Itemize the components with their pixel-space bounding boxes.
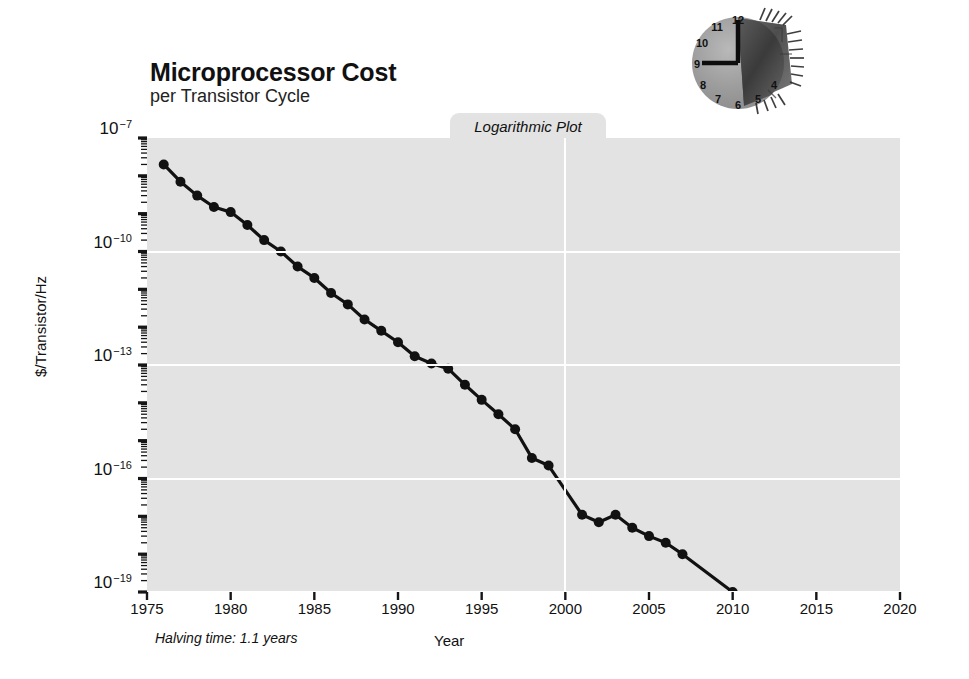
data-point[interactable] <box>410 351 420 361</box>
y-tick-label: 10−16 <box>62 459 132 480</box>
data-point[interactable] <box>644 531 654 541</box>
data-point[interactable] <box>510 424 520 434</box>
gridline-horizontal <box>147 591 900 593</box>
y-tick-label: 10−7 <box>62 118 132 139</box>
x-tick-label: 1980 <box>201 600 261 617</box>
svg-text:6: 6 <box>735 99 741 111</box>
series-line <box>164 164 833 592</box>
gridline-horizontal <box>147 478 900 480</box>
y-tick-label: 10−19 <box>62 572 132 593</box>
data-point[interactable] <box>577 510 587 520</box>
data-point[interactable] <box>527 453 537 463</box>
data-point[interactable] <box>242 220 252 230</box>
data-point[interactable] <box>493 409 503 419</box>
data-point[interactable] <box>159 159 169 169</box>
svg-text:10: 10 <box>696 37 708 49</box>
svg-text:5: 5 <box>755 93 761 105</box>
chart-page: Microprocessor Cost per Transistor Cycle… <box>0 0 969 679</box>
data-point[interactable] <box>376 326 386 336</box>
data-point[interactable] <box>594 517 604 527</box>
svg-text:9: 9 <box>694 58 700 70</box>
x-tick-label: 2020 <box>870 600 930 617</box>
data-point[interactable] <box>611 510 621 520</box>
data-point[interactable] <box>544 461 554 471</box>
data-point[interactable] <box>627 523 637 533</box>
y-tick-label: 10−10 <box>62 232 132 253</box>
x-tick-label: 1990 <box>368 600 428 617</box>
data-point[interactable] <box>677 549 687 559</box>
data-point[interactable] <box>209 202 219 212</box>
x-tick-label: 2010 <box>703 600 763 617</box>
x-tick-label: 1975 <box>117 600 177 617</box>
data-point[interactable] <box>661 538 671 548</box>
gridline-horizontal <box>147 364 900 366</box>
x-tick-label: 2005 <box>619 600 679 617</box>
page-subtitle: per Transistor Cycle <box>150 86 310 107</box>
data-point[interactable] <box>343 299 353 309</box>
data-point[interactable] <box>259 235 269 245</box>
chip-body-outer <box>738 18 792 105</box>
x-tick-label: 2015 <box>786 600 846 617</box>
plot-area <box>147 138 900 592</box>
x-axis-label: Year <box>434 632 464 649</box>
data-point[interactable] <box>293 262 303 272</box>
x-tick-label: 1995 <box>452 600 512 617</box>
data-point[interactable] <box>226 207 236 217</box>
data-point[interactable] <box>326 288 336 298</box>
svg-text:8: 8 <box>700 79 706 91</box>
svg-text:4: 4 <box>771 79 778 91</box>
clock-microchip-logo: 12 11 10 9 8 7 6 5 4 <box>686 6 804 118</box>
data-point[interactable] <box>393 337 403 347</box>
y-axis-label: $/Transistor/Hz <box>32 247 49 407</box>
gridline-horizontal <box>147 251 900 253</box>
svg-text:12: 12 <box>732 14 744 26</box>
data-point[interactable] <box>175 177 185 187</box>
logarithmic-plot-tab-label: Logarithmic Plot <box>450 113 606 140</box>
y-tick-label: 10−13 <box>62 345 132 366</box>
gridline-vertical <box>564 138 566 592</box>
logarithmic-plot-tab[interactable]: Logarithmic Plot <box>450 113 606 140</box>
halving-time-annotation: Halving time: 1.1 years <box>155 630 297 646</box>
svg-text:7: 7 <box>715 93 721 105</box>
x-tick-label: 1985 <box>284 600 344 617</box>
page-title: Microprocessor Cost <box>150 58 396 87</box>
data-point[interactable] <box>309 273 319 283</box>
data-point[interactable] <box>477 395 487 405</box>
data-point[interactable] <box>460 380 470 390</box>
svg-text:11: 11 <box>711 21 723 33</box>
data-point[interactable] <box>192 191 202 201</box>
data-point[interactable] <box>360 314 370 324</box>
x-tick-label: 2000 <box>535 600 595 617</box>
